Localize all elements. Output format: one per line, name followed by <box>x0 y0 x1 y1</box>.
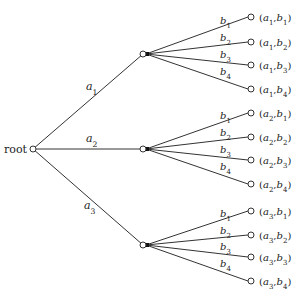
edge-label-b3: b3 <box>220 144 231 159</box>
edge-a3-b3 <box>146 245 248 257</box>
first-level-node <box>140 242 146 248</box>
edge-root-a3 <box>33 149 143 245</box>
first-level-node <box>140 51 146 57</box>
leaf-node <box>248 134 254 140</box>
first-level-node <box>140 146 146 152</box>
leaf-node <box>248 181 254 187</box>
edge-label-b3: b3 <box>220 241 231 256</box>
leaf-label: (a3,b2) <box>259 230 291 245</box>
leaf-label: (a3,b3) <box>259 252 291 267</box>
leaf-label: (a3,b4) <box>259 276 291 291</box>
leaf-label: (a2,b3) <box>259 155 291 170</box>
edge-label-b1: b1 <box>220 110 231 125</box>
tree-diagram: a1a2a3b1(a1,b1)b2(a1,b2)b3(a1,b3)b4(a1,b… <box>0 0 298 298</box>
leaf-node <box>248 14 254 20</box>
leaf-label: (a2,b1) <box>259 108 291 123</box>
leaf-node <box>248 278 254 284</box>
edge-a2-b2 <box>146 137 248 149</box>
leaf-label: (a1,b2) <box>259 37 291 52</box>
edge-a3-b4 <box>146 245 248 281</box>
leaf-node <box>248 208 254 214</box>
leaf-label: (a2,b4) <box>259 179 291 194</box>
leaf-label: (a2,b2) <box>259 132 291 147</box>
leaf-label: (a1,b4) <box>259 84 291 99</box>
tree-svg: a1a2a3b1(a1,b1)b2(a1,b2)b3(a1,b3)b4(a1,b… <box>0 0 298 298</box>
edge-label-a1: a1 <box>86 80 97 97</box>
root-label: root <box>4 143 28 156</box>
leaf-node <box>248 62 254 68</box>
leaf-label: (a3,b1) <box>259 206 291 221</box>
edge-label-b1: b1 <box>220 208 231 223</box>
edge-label-b4: b4 <box>220 66 231 81</box>
leaf-node <box>248 232 254 238</box>
leaf-label: (a1,b3) <box>259 60 291 75</box>
root-node <box>30 146 36 152</box>
edge-label-b3: b3 <box>220 49 231 64</box>
leaf-node <box>248 39 254 45</box>
edge-label-b1: b1 <box>220 15 231 30</box>
leaf-node <box>248 110 254 116</box>
edge-label-b4: b4 <box>220 161 231 176</box>
edge-label-b4: b4 <box>220 258 231 273</box>
edge-label-a2: a2 <box>86 132 98 149</box>
leaf-node <box>248 254 254 260</box>
leaf-node <box>248 86 254 92</box>
leaf-label: (a1,b1) <box>259 12 291 27</box>
edge-a2-b1 <box>146 113 248 149</box>
leaf-node <box>248 157 254 163</box>
